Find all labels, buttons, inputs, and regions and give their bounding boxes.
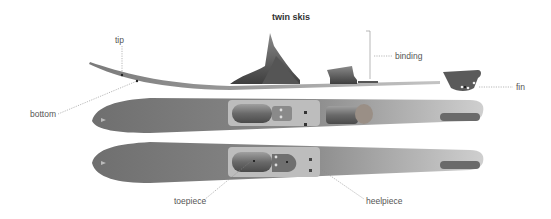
label-binding: binding: [395, 52, 422, 61]
toepiece-top-2: [232, 152, 272, 172]
label-tip: tip: [115, 36, 124, 45]
side-heelpiece: [327, 66, 357, 84]
ski-illustration: [0, 0, 551, 219]
ski-top-view-2: [92, 142, 483, 183]
side-view-ski: [89, 33, 481, 91]
label-bottom: bottom: [30, 110, 56, 119]
label-toepiece: toepiece: [174, 197, 206, 206]
label-fin: fin: [516, 83, 525, 92]
twin-skis-diagram: twin skis tip binding fin bottom toepiec…: [0, 0, 551, 219]
label-heelpiece: heelpiece: [366, 197, 402, 206]
diagram-title: twin skis: [272, 13, 310, 22]
heelpiece-top-1: [326, 106, 358, 124]
ski-top-view-1: [92, 98, 483, 133]
toepiece-top-1: [232, 104, 272, 123]
